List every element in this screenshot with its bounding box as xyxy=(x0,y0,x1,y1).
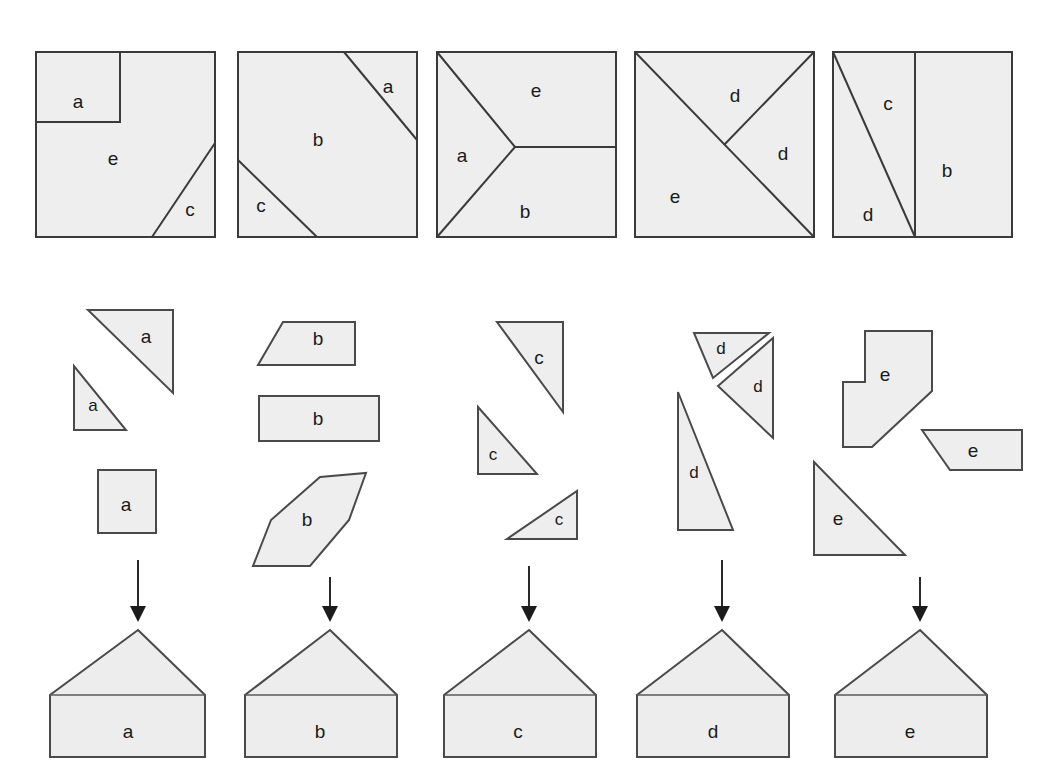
arrow-a xyxy=(130,560,146,622)
square-2: a b c xyxy=(238,52,417,237)
piece-label: c xyxy=(555,510,564,529)
piece-tall-triangle xyxy=(678,392,733,530)
region-label: c xyxy=(256,195,266,216)
region-label: b xyxy=(520,201,531,222)
house-label: d xyxy=(708,721,719,742)
piece-triangle-lower xyxy=(507,491,577,539)
piece-right-triangle xyxy=(814,462,905,555)
house-d: d xyxy=(637,630,789,757)
house-label: c xyxy=(513,721,523,742)
house-label: e xyxy=(905,721,916,742)
region-label: a xyxy=(383,76,394,97)
square-3: e a b xyxy=(437,52,616,237)
house-c: c xyxy=(444,630,596,757)
piece-label: a xyxy=(141,326,152,347)
square-5: c b d xyxy=(833,52,1012,237)
square-1: a e c xyxy=(36,52,215,237)
piece-label: c xyxy=(489,445,498,464)
pieces-d: d d d xyxy=(678,333,773,530)
region-label: c xyxy=(883,93,893,114)
piece-label: b xyxy=(313,328,324,349)
pieces-c: c c c xyxy=(478,322,577,539)
piece-label: c xyxy=(534,347,544,368)
region-label: c xyxy=(185,199,195,220)
region-label: e xyxy=(670,186,681,207)
arrow-e xyxy=(912,577,928,622)
house-label: b xyxy=(315,721,326,742)
piece-label: b xyxy=(302,509,313,530)
house-e: e xyxy=(835,630,987,757)
region-label: a xyxy=(73,91,84,112)
pieces-e: e e e xyxy=(814,331,1022,555)
square-4: d d e xyxy=(635,52,814,237)
house-b: b xyxy=(245,630,397,757)
piece-triangle-upper xyxy=(497,322,563,412)
region-label: e xyxy=(108,148,119,169)
piece-label: b xyxy=(313,408,324,429)
region-label: d xyxy=(863,204,874,225)
piece-label: e xyxy=(833,508,844,529)
piece-label: d xyxy=(716,339,725,358)
piece-notched-polygon xyxy=(843,331,932,447)
arrow-c xyxy=(521,566,537,622)
piece-trapezoid xyxy=(258,322,355,365)
region-label: a xyxy=(457,145,468,166)
region-label: d xyxy=(778,143,789,164)
piece-label: e xyxy=(880,364,891,385)
piece-label: d xyxy=(753,377,762,396)
piece-label: a xyxy=(88,396,98,415)
house-label: a xyxy=(123,721,134,742)
piece-large-right-triangle xyxy=(88,310,173,393)
pieces-a: a a a xyxy=(74,310,173,533)
house-a: a xyxy=(50,630,205,757)
piece-label: e xyxy=(968,440,979,461)
arrow-b xyxy=(322,577,338,622)
region-label: b xyxy=(942,160,953,181)
region-label: b xyxy=(313,129,324,150)
piece-triangle-middle xyxy=(478,407,537,474)
piece-label: a xyxy=(121,494,132,515)
piece-small-right-triangle xyxy=(74,366,126,430)
region-label: d xyxy=(730,85,741,106)
pieces-b: b b b xyxy=(253,322,379,566)
puzzle-figure: a e c a b c e a b d d e c b d xyxy=(0,0,1058,782)
region-label: e xyxy=(531,80,542,101)
piece-label: d xyxy=(689,463,698,482)
arrow-d xyxy=(714,560,730,622)
